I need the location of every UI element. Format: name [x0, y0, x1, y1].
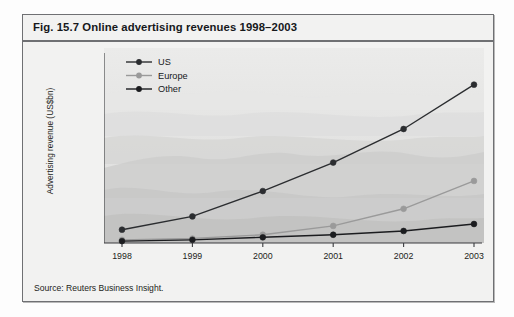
y-axis-label: Advertising revenue (US$bn) [45, 61, 55, 221]
data-point [119, 238, 125, 244]
data-point [260, 234, 266, 240]
data-point [401, 228, 407, 234]
x-axis-tick-label: 2001 [323, 251, 343, 261]
data-point [471, 221, 477, 227]
data-point [190, 237, 196, 243]
legend-marker [136, 86, 142, 92]
data-point [401, 206, 407, 212]
data-point [471, 178, 477, 184]
legend-label: US [158, 57, 171, 67]
legend-label: Other [158, 84, 181, 94]
data-point [330, 232, 336, 238]
data-point [330, 223, 336, 229]
legend-marker [136, 59, 142, 65]
data-point [260, 188, 266, 194]
data-point [190, 214, 196, 220]
figure-title: Fig. 15.7 Online advertising revenues 19… [23, 15, 493, 40]
plot-wrapper: 051015202530199819992000200120022003 USE… [104, 48, 484, 280]
screenshot-root: Fig. 15.7 Online advertising revenues 19… [0, 0, 514, 317]
chart-area: Advertising revenue (US$bn) [34, 48, 484, 280]
data-point [330, 160, 336, 166]
figure-source-note: Source: Reuters Business Insight. [34, 283, 163, 293]
x-axis-tick-label: 2002 [394, 251, 414, 261]
figure-container: Fig. 15.7 Online advertising revenues 19… [22, 14, 494, 302]
legend-marker [136, 73, 142, 79]
data-point [401, 126, 407, 132]
x-axis-tick-label: 2003 [464, 251, 484, 261]
x-axis-tick-label: 1999 [183, 251, 203, 261]
x-axis-tick-label: 1998 [112, 251, 132, 261]
x-axis-tick-label: 2000 [253, 251, 273, 261]
data-point [471, 82, 477, 88]
title-divider [23, 40, 493, 42]
line-chart: 051015202530199819992000200120022003 USE… [104, 48, 484, 280]
data-point [119, 227, 125, 233]
legend-label: Europe [158, 71, 188, 81]
